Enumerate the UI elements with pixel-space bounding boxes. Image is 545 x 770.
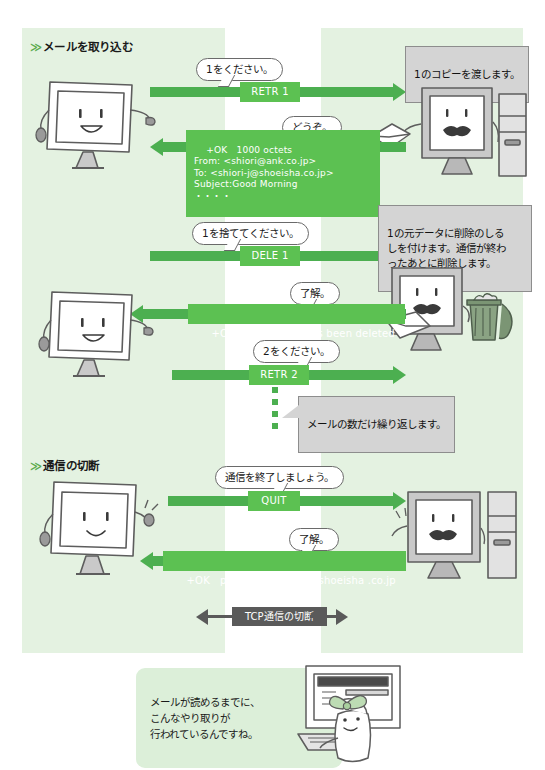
callout-repeat-label: メールの数だけ繰り返します。 xyxy=(307,418,446,430)
bubble-dele1-client-label: 1を捨ててください。 xyxy=(202,227,299,239)
client-monitor-smiling xyxy=(36,76,156,176)
arrow-head-left-icon xyxy=(196,609,208,625)
bubble-retr1-client-label: 1をください。 xyxy=(206,63,273,75)
bubble-quit-server: 了解。 xyxy=(289,528,339,551)
section-heading-retrieve-mail: ≫メールを取り込む xyxy=(30,38,133,54)
tcp-line-right xyxy=(310,615,336,618)
response-quit-label: +OK pop server at mail.shoeisha .co.jp xyxy=(187,575,396,586)
callout-tail xyxy=(282,405,299,418)
command-quit: QUIT xyxy=(248,491,300,511)
response-retr1: +OK 1000 octets From: <shiori@ank.co.jp>… xyxy=(186,130,380,217)
person-with-bow-at-computer xyxy=(288,662,418,766)
server-monitor-mustache-quit xyxy=(392,478,522,590)
tcp-disconnect-row: TCP通信の切断 xyxy=(196,607,348,627)
server-monitor-mustache xyxy=(404,80,530,190)
command-retr1: RETR 1 xyxy=(240,82,300,102)
response-dele1: +OK message 1 has been deleted xyxy=(188,304,405,324)
section-heading-label: メールを取り込む xyxy=(43,40,133,54)
diagram-canvas: ≫メールを取り込む 1をください。 xyxy=(0,0,545,770)
bubble-dele1-client: 1を捨ててください。 xyxy=(192,222,309,245)
section-heading-disconnect: ≫通信の切断 xyxy=(30,457,99,473)
bubble-retr1-client: 1をください。 xyxy=(196,58,283,81)
response-quit: +OK pop server at mail.shoeisha .co.jp xyxy=(163,551,406,571)
command-retr2: RETR 2 xyxy=(249,365,309,385)
response-retr1-label: +OK 1000 octets From: <shiori@ank.co.jp>… xyxy=(194,145,334,201)
response-dele1-label: +OK message 1 has been deleted xyxy=(212,328,395,339)
repeat-dots-indicator xyxy=(272,387,278,429)
chevron-icon: ≫ xyxy=(30,40,42,54)
callout-server-retr1-label: 1のコピーを渡します。 xyxy=(414,68,520,80)
command-dele1-label: DELE 1 xyxy=(251,250,288,261)
bubble-quit-client-label: 通信を終了しましょう。 xyxy=(225,471,334,483)
tcp-disconnect-label: TCP通信の切断 xyxy=(245,611,314,622)
arrow-head-right-icon xyxy=(336,609,348,625)
tcp-line-left xyxy=(208,615,234,618)
bubble-retr2-client-label: 2をください。 xyxy=(263,345,330,357)
bubble-dele1-server-label: 了解。 xyxy=(300,287,330,299)
command-dele1: DELE 1 xyxy=(240,246,300,266)
command-quit-label: QUIT xyxy=(261,495,286,506)
callout-summary-label: メールが読めるまでに、 こんなやり取りが 行われているんですね。 xyxy=(150,696,260,740)
arrow-head-left-icon xyxy=(140,552,153,570)
bubble-quit-server-label: 了解。 xyxy=(299,533,329,545)
section-heading-label: 通信の切断 xyxy=(43,459,99,473)
callout-repeat: メールの数だけ繰り返します。 xyxy=(298,396,455,453)
client-monitor-smiling-mid xyxy=(40,286,156,382)
trash-can-icon xyxy=(462,288,522,346)
command-retr1-label: RETR 1 xyxy=(251,86,289,97)
arrow-head-right-icon xyxy=(393,366,406,384)
bubble-dele1-server: 了解。 xyxy=(290,282,340,305)
chevron-icon: ≫ xyxy=(30,459,42,473)
command-retr2-label: RETR 2 xyxy=(260,369,298,380)
bubble-quit-client: 通信を終了しましょう。 xyxy=(215,466,344,489)
bubble-retr2-client: 2をください。 xyxy=(253,340,340,363)
arrow-head-left-icon xyxy=(150,138,163,156)
